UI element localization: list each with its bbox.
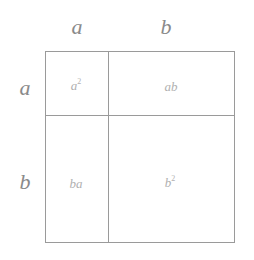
cell-ab-text: ab: [165, 79, 178, 94]
grid-border-bottom: [45, 242, 235, 243]
grid-border-top: [45, 51, 235, 52]
cell-a-squared: a2: [71, 78, 82, 92]
grid-divider-vertical: [108, 51, 109, 243]
side-label-a: a: [20, 77, 31, 99]
grid-border-left: [45, 51, 46, 243]
grid-border-right: [234, 51, 235, 243]
grid-divider-horizontal: [45, 115, 235, 116]
cell-ab: ab: [165, 80, 178, 93]
side-label-b: b: [20, 171, 31, 193]
cell-b-squared-exponent: 2: [171, 174, 175, 183]
cell-b-squared: b2: [165, 175, 176, 189]
cell-ba-text: ba: [70, 176, 83, 191]
top-label-a: a: [72, 16, 83, 38]
cell-a-squared-exponent: 2: [77, 77, 81, 86]
cell-ba: ba: [70, 177, 83, 190]
top-label-b: b: [161, 16, 172, 38]
